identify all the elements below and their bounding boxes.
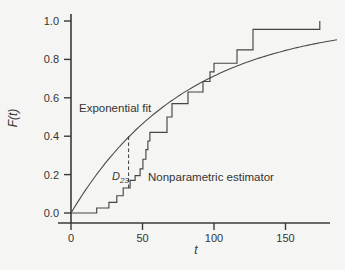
data-series [71, 21, 337, 213]
x-tick-label: 0 [68, 232, 74, 244]
x-tick-label: 50 [136, 232, 148, 244]
d-statistic-label: D23 [112, 170, 129, 185]
x-tick-label: 100 [205, 232, 223, 244]
x-axis-label: t [194, 243, 198, 257]
y-tick-label: 0.0 [44, 207, 59, 219]
y-tick-label: 1.0 [44, 15, 59, 27]
axes [58, 14, 330, 223]
y-tick-label: 0.8 [44, 53, 59, 65]
ks-distribution-fit-figure: 0501001500.00.20.40.60.81.0 Exponential … [0, 0, 345, 270]
exponential-fit-curve [71, 40, 337, 213]
tick-labels: 0501001500.00.20.40.60.81.0 [44, 15, 295, 244]
exponential-fit-label: Exponential fit [79, 102, 152, 114]
y-tick-label: 0.2 [44, 169, 59, 181]
nonparametric-estimator-steps [71, 21, 320, 213]
y-axis-label: F(t) [6, 109, 20, 128]
tick-marks [64, 21, 286, 230]
x-tick-label: 150 [276, 232, 294, 244]
plot-area: 0501001500.00.20.40.60.81.0 Exponential … [0, 0, 345, 270]
y-tick-label: 0.4 [44, 130, 59, 142]
nonparametric-estimator-label: Nonparametric estimator [148, 171, 274, 183]
y-tick-label: 0.6 [44, 92, 59, 104]
